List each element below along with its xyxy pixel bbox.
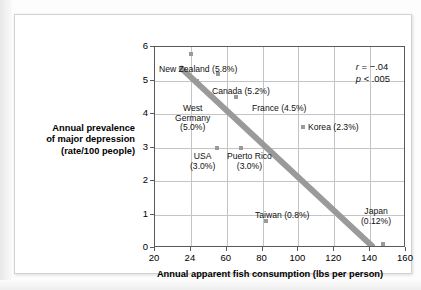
- x-axis-tick-label: 100: [282, 252, 312, 263]
- statistics-annotation: r = −.04 p < .005: [356, 61, 390, 85]
- correlation-statistic: r = −.04: [356, 61, 390, 73]
- y-axis-tick-label: 3: [126, 141, 148, 152]
- x-axis-tick-label: 140: [354, 252, 384, 263]
- x-axis-tick-mark: [262, 247, 263, 251]
- page-edge-shading-bottom: [0, 280, 421, 290]
- data-point-label-korea: Korea (2.3%): [301, 123, 359, 133]
- x-axis-tick-mark: [226, 247, 227, 251]
- y-axis-tick-label: 2: [126, 174, 148, 185]
- plot-area: New Zealand (5.8%)Canada (5.2%)West Germ…: [154, 46, 405, 247]
- y-axis-tick-mark: [150, 80, 154, 81]
- x-axis-tick-label: 60: [211, 252, 241, 263]
- y-axis-label-line-3: (rate/100 people): [19, 146, 135, 157]
- y-axis-tick-mark: [150, 113, 154, 114]
- data-point-label-west-germany: West Germany (5.0%): [175, 104, 210, 133]
- y-axis-tick-label: 6: [126, 40, 148, 51]
- x-axis-tick-label: 80: [247, 252, 277, 263]
- y-axis-tick-label: 0: [126, 241, 148, 252]
- x-axis-tick-mark: [333, 247, 334, 251]
- y-axis-tick-mark: [150, 46, 154, 47]
- x-axis-tick-mark: [369, 247, 370, 251]
- x-axis-tick-mark: [405, 247, 406, 251]
- x-axis-tick-mark: [190, 247, 191, 251]
- data-point-label-france: France (4.5%): [252, 104, 306, 114]
- y-axis-tick-label: 4: [126, 107, 148, 118]
- x-axis-label: Annual apparent fish consumption (lbs pe…: [125, 269, 415, 279]
- data-point-label-canada: Canada (5.2%): [212, 87, 270, 97]
- y-axis-tick-mark: [150, 214, 154, 215]
- x-axis-tick-label: 24: [175, 252, 205, 263]
- r-value: = −.04: [359, 61, 388, 72]
- data-point-label-puerto-rico: Puerto Rico (3.0%): [227, 152, 272, 171]
- y-axis-tick-label: 5: [126, 74, 148, 85]
- x-axis-tick-label: 20: [139, 252, 169, 263]
- p-value-statistic: p < .005: [356, 73, 390, 85]
- data-point-label-japan: Japan (0.12%): [361, 207, 391, 226]
- y-axis-tick-mark: [150, 147, 154, 148]
- figure-page: Annual prevalence of major depression (r…: [0, 0, 421, 290]
- y-axis-label-line-1: Annual prevalence: [19, 123, 135, 134]
- data-point-label-usa: USA (3.0%): [190, 152, 215, 171]
- y-axis-tick-mark: [150, 180, 154, 181]
- y-axis-label-line-2: of major depression: [19, 134, 135, 145]
- figure-card: Annual prevalence of major depression (r…: [14, 14, 412, 274]
- data-point-label-taiwan: Taiwan (0.8%): [255, 211, 309, 221]
- data-point-label-text: Korea (2.3%): [308, 122, 359, 132]
- page-edge-shading-left: [0, 0, 12, 290]
- x-axis-tick-mark: [297, 247, 298, 251]
- x-axis-tick-label: 160: [390, 252, 420, 263]
- p-value: < .005: [361, 73, 390, 84]
- x-axis-tick-mark: [154, 247, 155, 251]
- x-axis-tick-label: 120: [318, 252, 348, 263]
- y-axis-tick-label: 1: [126, 208, 148, 219]
- data-marker: [301, 125, 305, 129]
- y-axis-label: Annual prevalence of major depression (r…: [19, 123, 135, 157]
- data-point-label-new-zealand: New Zealand (5.8%): [159, 65, 237, 75]
